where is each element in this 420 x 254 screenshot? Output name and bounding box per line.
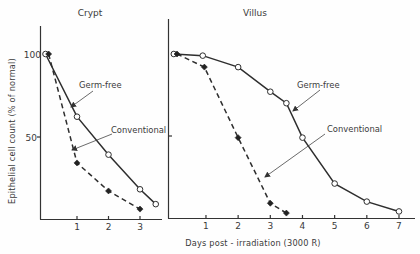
crypt-conventional-annotation: Conventional — [111, 125, 166, 135]
crypt-x-tick-label: 1 — [74, 222, 80, 232]
villus-x-ticks: 1234567 — [203, 215, 402, 231]
crypt-germ-free-point-open-circle-icon — [106, 152, 112, 158]
crypt-conventional-point-diamond-icon — [137, 206, 143, 212]
villus-x-tick-label: 5 — [332, 221, 338, 231]
villus-panel: Villus 1234567 Germ-free Conventional — [168, 8, 415, 231]
villus-germ-free-point-open-circle-icon — [235, 64, 241, 70]
x-axis-label: Days post - irradiation (3000 R) — [185, 238, 320, 248]
villus-germ-free-point-open-circle-icon — [396, 209, 402, 215]
villus-germ-free-point-open-circle-icon — [364, 199, 370, 205]
crypt-germ-free-point-open-circle-icon — [74, 114, 80, 120]
villus-germ-free-point-open-circle-icon — [284, 100, 290, 106]
crypt-x-tick-label: 2 — [106, 222, 112, 232]
villus-panel-title: Villus — [243, 8, 267, 18]
villus-conventional-point-diamond-icon — [267, 200, 273, 206]
crypt-germ-free-point-open-circle-icon — [153, 201, 159, 207]
crypt-germ-free-arrow-icon — [71, 91, 93, 107]
villus-conventional-arrow-icon — [265, 134, 325, 177]
crypt-germ-free-annotation: Germ-free — [79, 80, 122, 90]
villus-germ-free-point-open-circle-icon — [332, 181, 338, 187]
crypt-y-tick-label-100: 100 — [24, 50, 41, 60]
crypt-conventional-arrow-icon — [72, 134, 112, 150]
crypt-germ-free-point-open-circle-icon — [137, 187, 143, 193]
crypt-panel: Crypt 100 50 123 Germ-free Conventional — [24, 8, 166, 232]
villus-germ-free-annotation: Germ-free — [297, 80, 340, 90]
villus-x-tick-label: 3 — [267, 221, 273, 231]
villus-conventional-line — [177, 54, 286, 213]
figure: Epithelial cell count (% of normal) Cryp… — [0, 0, 420, 254]
villus-x-tick-label: 6 — [364, 221, 370, 231]
crypt-conventional-point-diamond-icon — [106, 188, 112, 194]
villus-conventional-point-diamond-icon — [235, 135, 241, 141]
crypt-y-tick-label-50: 50 — [26, 133, 38, 143]
villus-conventional-point-diamond-icon — [201, 64, 207, 70]
villus-germ-free-point-open-circle-icon — [300, 135, 306, 141]
villus-x-tick-label: 7 — [396, 221, 402, 231]
chart-canvas: Epithelial cell count (% of normal) Cryp… — [0, 0, 420, 254]
villus-x-tick-label: 2 — [235, 221, 241, 231]
villus-germ-free-arrow-icon — [293, 90, 320, 111]
villus-x-tick-label: 4 — [300, 221, 306, 231]
y-axis-label: Epithelial cell count (% of normal) — [7, 58, 17, 204]
villus-germ-free-point-open-circle-icon — [268, 89, 274, 95]
villus-x-tick-label: 1 — [203, 221, 209, 231]
villus-conventional-annotation: Conventional — [327, 124, 382, 134]
crypt-x-tick-label: 3 — [137, 222, 143, 232]
crypt-x-ticks: 123 — [74, 216, 143, 232]
crypt-panel-title: Crypt — [78, 8, 103, 18]
villus-germ-free-point-open-circle-icon — [200, 53, 206, 59]
